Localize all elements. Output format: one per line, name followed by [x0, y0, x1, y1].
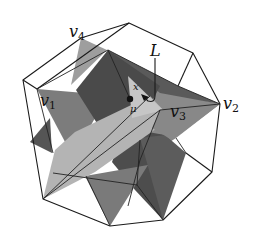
label-v4: v4	[69, 22, 85, 43]
point-marker	[127, 96, 133, 102]
label-v2: v2	[223, 94, 239, 115]
face-bottom-medium	[85, 165, 148, 226]
polyhedron-diagram: v4 v1 v3 v2 L x μ	[0, 0, 255, 239]
label-mu: μ	[130, 103, 137, 114]
label-L: L	[149, 41, 161, 60]
label-x: x	[133, 81, 139, 92]
